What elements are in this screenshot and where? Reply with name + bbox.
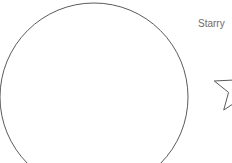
drawing-canvas[interactable]: Starry bbox=[0, 0, 232, 163]
circle-shape[interactable] bbox=[0, 3, 188, 163]
shape-layer bbox=[0, 0, 232, 163]
star-shape[interactable] bbox=[214, 63, 232, 110]
